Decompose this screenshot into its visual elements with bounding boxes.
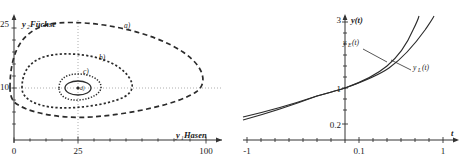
x-tick-label-neg1: -1: [243, 146, 251, 156]
phase-portrait-panel: a) b) c) d) 0 25 100 10 25 y 2 Füchse y …: [0, 0, 235, 166]
x-axis-title-main: Hasen: [183, 130, 207, 140]
solution-curve-yL: [243, 16, 434, 120]
curve-label-yL: y L (t): [412, 63, 430, 74]
x-tick-label-100: 100: [199, 146, 213, 156]
solution-curve-yE: [243, 16, 419, 117]
curve-label-yE-var: y: [342, 38, 347, 47]
y-axis-title-var: y: [21, 19, 26, 29]
phase-portrait-svg: a) b) c) d) 0 25 100 10 25 y 2 Füchse y …: [0, 0, 235, 166]
x-axis-title: t: [451, 128, 454, 138]
curve-label-yL-var: y: [412, 63, 417, 72]
y-axis-title-main: Füchse: [29, 19, 56, 29]
y-tick-label-3: 3: [337, 15, 342, 25]
x-axis-arrow: [453, 138, 459, 143]
x-tick-label-0: 0: [12, 146, 17, 156]
x-tick-label-1: 1: [441, 146, 446, 156]
orbit-curve-a: [10, 22, 203, 117]
solution-curves-svg: y E (t) y L (t) 3 1 0.2 -1 0.1 1 y(t) t: [235, 0, 469, 166]
curve-label-b: b): [99, 53, 106, 62]
curve-label-yL-tail: (t): [422, 63, 430, 72]
curve-label-yE-tail: (t): [352, 38, 360, 47]
leader-line-yL: [391, 60, 411, 70]
x-axis-title-var: y: [175, 130, 180, 140]
y-tick-label-0.2: 0.2: [330, 120, 341, 130]
curve-label-c: c): [83, 67, 89, 76]
y-tick-label-1: 1: [337, 84, 342, 94]
y-axis-title: y(t): [350, 15, 363, 25]
figure-container: a) b) c) d) 0 25 100 10 25 y 2 Füchse y …: [0, 0, 469, 166]
curve-label-yL-sub: L: [417, 67, 421, 73]
x-axis-arrow: [216, 138, 222, 143]
y-tick-label-25: 25: [0, 19, 10, 29]
y-tick-label-10: 10: [0, 82, 10, 92]
curve-label-a: a): [124, 21, 131, 30]
leader-line-yE: [363, 49, 387, 62]
x-tick-label-25: 25: [74, 146, 84, 156]
y-axis-arrow: [343, 14, 348, 20]
x-tick-label-0.1: 0.1: [353, 146, 364, 156]
solution-curves-panel: y E (t) y L (t) 3 1 0.2 -1 0.1 1 y(t) t: [235, 0, 469, 166]
curve-label-yE: y E (t): [342, 38, 360, 49]
y-axis-title: y 2 Füchse: [21, 19, 56, 30]
y-axis-arrow: [12, 14, 17, 20]
curve-label-d: d): [80, 85, 85, 92]
